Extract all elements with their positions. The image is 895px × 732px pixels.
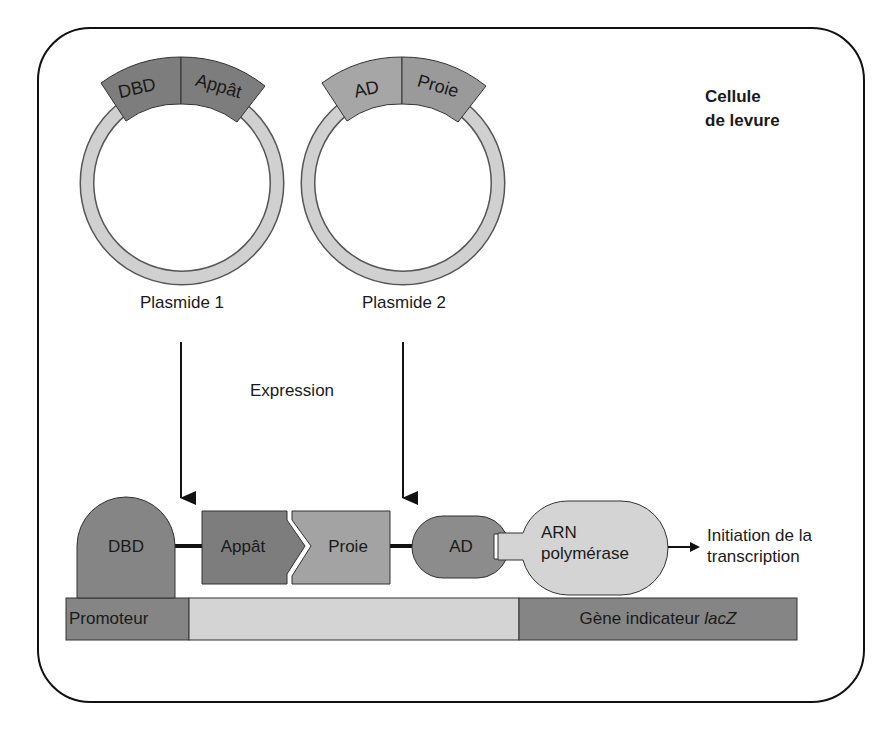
reporter-prefix: Gène indicateur xyxy=(580,609,705,628)
plasmid-1-label: Plasmide 1 xyxy=(140,293,224,313)
bait-label: Appât xyxy=(221,537,265,557)
ad-label: AD xyxy=(449,537,473,557)
plasmid-2-label: Plasmide 2 xyxy=(362,293,446,313)
expression-label: Expression xyxy=(250,381,334,401)
transcription-initiation-line1: Initiation de la xyxy=(707,525,812,546)
plasmid-2 xyxy=(308,57,498,278)
reporter-gene-name: lacZ xyxy=(704,609,736,628)
promoter-label: Promoteur xyxy=(69,609,148,629)
prey-label: Proie xyxy=(328,537,368,557)
transcription-initiation-line2: transcription xyxy=(707,546,812,567)
plasmid-1 xyxy=(87,57,277,278)
cell-title-line2: de levure xyxy=(705,109,780,133)
cell-title-line1: Cellule xyxy=(705,85,780,109)
reporter-gene-label: Gène indicateur lacZ xyxy=(580,609,737,629)
polymerase-label: ARN polymérase xyxy=(541,522,629,564)
polymerase-label-line2: polymérase xyxy=(541,543,629,564)
transcription-initiation-label: Initiation de la transcription xyxy=(707,525,812,567)
spacer-region xyxy=(189,598,519,640)
polymerase-label-line1: ARN xyxy=(541,522,629,543)
cell-title: Cellule de levure xyxy=(705,85,780,133)
dbd-label: DBD xyxy=(108,537,144,557)
